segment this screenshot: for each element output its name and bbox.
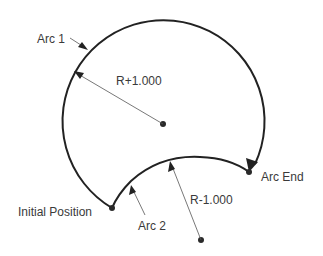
initial-position-label: Initial Position: [18, 205, 92, 219]
arc-2-label: Arc 2: [138, 219, 166, 233]
arc-1-label-arrowhead-icon: [78, 42, 88, 50]
arc-2-label-leader: [133, 190, 145, 215]
radius-plus-label: R+1.000: [116, 74, 162, 88]
radius-minus-label: R-1.000: [190, 193, 233, 207]
arc-1-label: Arc 1: [37, 32, 65, 46]
arc-end-point: [246, 169, 252, 175]
arc-end-label: Arc End: [261, 170, 304, 184]
arc-diagram: Arc 1 R+1.000 R-1.000 Arc End Initial Po…: [0, 0, 323, 256]
radius-plus-arrowhead-icon: [74, 71, 84, 79]
arc-1-curve: [63, 20, 265, 208]
initial-position-point: [109, 205, 115, 211]
